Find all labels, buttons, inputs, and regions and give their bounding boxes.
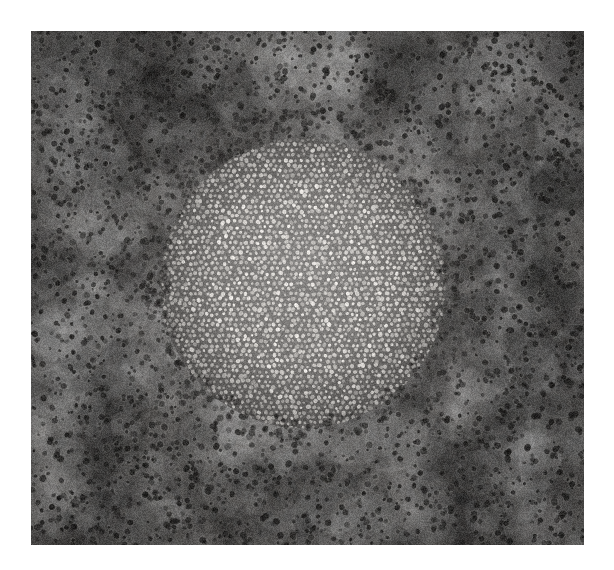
micrograph-title: Grayscale micrograph of a circular pore-…	[0, 0, 1, 1]
micrograph-image	[31, 31, 584, 545]
screenshot-viewport: Grayscale micrograph of a circular pore-…	[0, 0, 614, 570]
micrograph-frame	[31, 31, 584, 545]
